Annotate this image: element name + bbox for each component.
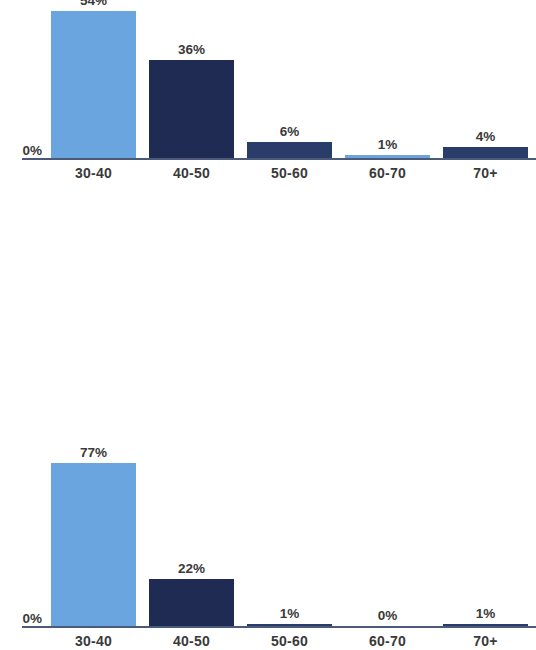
x-axis-tick-label: 40-50 bbox=[144, 633, 239, 649]
bar-slot: 22% bbox=[144, 452, 239, 626]
bar-slot: 77% bbox=[46, 452, 141, 626]
x-axis-tick-label: 70+ bbox=[438, 633, 533, 649]
x-axis-line bbox=[22, 158, 536, 160]
bar bbox=[443, 147, 528, 158]
bar bbox=[149, 60, 234, 158]
x-axis-tick-labels: 30-4040-5050-6060-7070+ bbox=[46, 165, 536, 187]
bar-slot: 54% bbox=[46, 0, 141, 158]
bar-value-label: 77% bbox=[46, 445, 141, 460]
x-axis-tick-label: 60-70 bbox=[340, 165, 435, 181]
bar-group: 54%36%6%1%4% bbox=[46, 0, 536, 158]
bar-slot: 36% bbox=[144, 0, 239, 158]
plot-area: 54%36%6%1%4% bbox=[46, 0, 536, 158]
y-axis-tick-label-zero: 0% bbox=[4, 143, 42, 158]
bar bbox=[149, 579, 234, 626]
x-axis-tick-label: 50-60 bbox=[242, 633, 337, 649]
chart-panel-rd-manufacturing: R&D & Manufacturing 0% 54%36%6%1%4% 30-4… bbox=[0, 0, 536, 214]
x-axis-tick-label: 70+ bbox=[438, 165, 533, 181]
bar bbox=[247, 142, 332, 158]
bar-slot: 0% bbox=[340, 452, 435, 626]
x-axis-tick-label: 40-50 bbox=[144, 165, 239, 181]
bar-slot: 1% bbox=[438, 452, 533, 626]
bar-value-label: 6% bbox=[242, 124, 337, 139]
bar-slot: 1% bbox=[242, 452, 337, 626]
x-axis-tick-label: 60-70 bbox=[340, 633, 435, 649]
bar-value-label: 1% bbox=[242, 606, 337, 621]
y-axis-tick-label-zero: 0% bbox=[4, 611, 42, 626]
x-axis-line bbox=[22, 626, 536, 628]
chart-panel-defence-aerospace: Defence Aerospace 0% 77%22%1%0%1% 30-404… bbox=[0, 214, 536, 440]
bar-value-label: 1% bbox=[438, 606, 533, 621]
x-axis-tick-labels: 30-4040-5050-6060-7070+ bbox=[46, 633, 536, 650]
bar-group: 77%22%1%0%1% bbox=[46, 452, 536, 626]
x-axis-tick-label: 50-60 bbox=[242, 165, 337, 181]
bar-value-label: 54% bbox=[46, 0, 141, 8]
bar-slot: 6% bbox=[242, 0, 337, 158]
bar-value-label: 0% bbox=[340, 608, 435, 623]
bar-slot: 1% bbox=[340, 0, 435, 158]
bar-value-label: 36% bbox=[144, 42, 239, 57]
bar bbox=[51, 463, 136, 626]
bar-slot: 4% bbox=[438, 0, 533, 158]
plot-area: 77%22%1%0%1% bbox=[46, 452, 536, 626]
bar-value-label: 22% bbox=[144, 561, 239, 576]
bar bbox=[51, 11, 136, 158]
bar-value-label: 4% bbox=[438, 129, 533, 144]
bar-value-label: 1% bbox=[340, 137, 435, 152]
x-axis-tick-label: 30-40 bbox=[46, 165, 141, 181]
x-axis-tick-label: 30-40 bbox=[46, 633, 141, 649]
